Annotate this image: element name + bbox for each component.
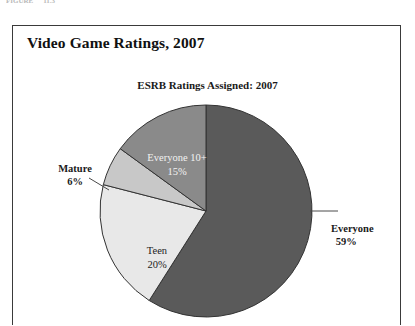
- pie-label-mature: Mature 6%: [45, 162, 105, 188]
- pie-label-mature-name: Mature: [45, 162, 105, 175]
- pie-label-everyone-10-plus-name: Everyone 10+: [129, 151, 225, 165]
- pie-label-everyone-10-plus: Everyone 10+ 15%: [129, 151, 225, 179]
- pie-label-teen-value: 20%: [127, 258, 187, 272]
- pie-label-mature-value: 6%: [45, 175, 105, 188]
- scan-header-artifact: FIGURE 11.3: [6, 0, 156, 8]
- pie-label-everyone-name: Everyone: [331, 222, 374, 235]
- pie-slice-group: [100, 105, 312, 317]
- pie-label-teen: Teen 20%: [127, 244, 187, 272]
- scan-header-fragment-1: FIGURE: [6, 0, 33, 5]
- pie-label-teen-name: Teen: [127, 244, 187, 258]
- scan-header-fragment-2: 11.3: [43, 0, 55, 5]
- figure-frame: Video Game Ratings, 2007 ESRB Ratings As…: [12, 25, 401, 325]
- pie-label-everyone-10-plus-value: 15%: [129, 165, 225, 179]
- pie-chart: Everyone 59% Mature 6% Everyone 10+ 15% …: [13, 26, 402, 326]
- pie-label-everyone: Everyone 59%: [331, 222, 374, 248]
- pie-label-everyone-value: 59%: [331, 235, 374, 248]
